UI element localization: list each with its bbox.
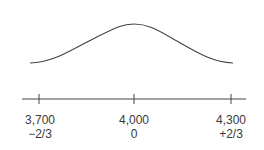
tick-label-value: 4,000 — [109, 113, 159, 127]
tick-label-z: 0 — [109, 127, 159, 141]
tick-label-z: −2/3 — [15, 127, 65, 141]
bell-curve — [30, 24, 233, 63]
tick-label-z: +2/3 — [206, 127, 256, 141]
tick-label-value: 4,300 — [206, 113, 256, 127]
tick-label-value: 3,700 — [15, 113, 65, 127]
